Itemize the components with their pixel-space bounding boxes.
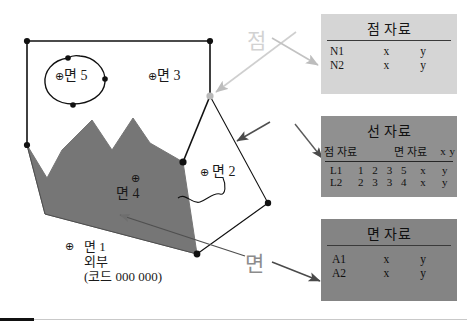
area-row2-id: A2 bbox=[321, 266, 384, 280]
table-row: A1 x y bbox=[321, 252, 457, 266]
line-row1-n2: 2 bbox=[370, 164, 384, 176]
point-data-table: 점 자료 N1 x y N2 x y bbox=[321, 14, 457, 94]
area-table-rule bbox=[327, 245, 451, 246]
figure-canvas: ⊕ 면 5 ⊕ 면 3 ⊕ 면 2 ⊕ 면 4 ⊕ 면 1 외부 (코드 000… bbox=[0, 0, 467, 329]
table-row: N2 x y bbox=[321, 58, 457, 72]
centroid-icon-area1: ⊕ bbox=[65, 240, 74, 253]
table-row: L2 2 3 3 4 x y bbox=[321, 176, 457, 188]
table-row: L1 1 2 3 5 x y bbox=[321, 164, 457, 176]
bottom-rule-light-segment bbox=[34, 319, 467, 320]
point-row1-y: y bbox=[420, 44, 457, 58]
point-row2-y: y bbox=[420, 58, 457, 72]
point-table-rule bbox=[327, 40, 451, 41]
point-row1-id: N1 bbox=[321, 44, 384, 58]
area-row1-id: A1 bbox=[321, 252, 384, 266]
line-row1-a1: 3 bbox=[385, 164, 399, 176]
line-header-x: x bbox=[438, 142, 447, 160]
area-data-table: 면 자료 A1 x y A2 x y bbox=[321, 219, 457, 301]
line-row2-n2: 3 bbox=[370, 176, 384, 188]
area-table-arrow bbox=[272, 262, 320, 281]
table-row: A2 x y bbox=[321, 266, 457, 280]
line-data-table: 선 자료 점 자료 면 자료 x y L1 1 2 3 5 x bbox=[321, 116, 457, 197]
bottom-rule bbox=[0, 318, 467, 321]
line-row1-x: x bbox=[413, 164, 435, 176]
label-area4: 면 4 bbox=[116, 186, 140, 202]
point-row1-x: x bbox=[384, 44, 421, 58]
label-area1-code: (코드 000 000) bbox=[84, 270, 162, 285]
centroid-icon-area5: ⊕ bbox=[55, 70, 64, 83]
line-edge-arrow bbox=[237, 122, 270, 141]
line-header-area: 면 자료 bbox=[382, 142, 438, 160]
area-row2-x: x bbox=[384, 266, 421, 280]
line-row1-n1: 1 bbox=[356, 164, 370, 176]
line-header-y: y bbox=[448, 142, 457, 160]
label-area2: 면 2 bbox=[212, 164, 236, 180]
bottom-rule-dark-segment bbox=[0, 318, 34, 321]
line-row1-id: L1 bbox=[321, 164, 356, 176]
area-table-title: 면 자료 bbox=[321, 219, 457, 245]
point-row2-id: N2 bbox=[321, 58, 384, 72]
line-row1-a2: 5 bbox=[399, 164, 413, 176]
area-row1-x: x bbox=[384, 252, 421, 266]
line-row2-a1: 3 bbox=[385, 176, 399, 188]
label-area1-name: 면 1 bbox=[84, 240, 162, 255]
line-row2-x: x bbox=[413, 176, 435, 188]
area-row1-y: y bbox=[420, 252, 457, 266]
line-table-title: 선 자료 bbox=[321, 116, 457, 142]
point-table-title: 점 자료 bbox=[321, 14, 457, 40]
label-area3: 면 3 bbox=[157, 68, 181, 84]
line-table-arrow bbox=[295, 124, 322, 158]
callout-area-word: 면 bbox=[245, 247, 264, 277]
line-row2-n1: 2 bbox=[356, 176, 370, 188]
area4-polygon bbox=[27, 118, 197, 254]
label-area1-block: 면 1 외부 (코드 000 000) bbox=[84, 240, 162, 285]
centroid-icon-area3: ⊕ bbox=[148, 70, 157, 83]
line-table-header-row: 점 자료 면 자료 x y bbox=[321, 142, 457, 160]
callout-point-word: 점 bbox=[247, 24, 266, 54]
outer-boundary-polygon bbox=[27, 41, 210, 145]
line-row1-y: y bbox=[435, 164, 457, 176]
area-row2-y: y bbox=[420, 266, 457, 280]
line-row2-y: y bbox=[435, 176, 457, 188]
line-row2-id: L2 bbox=[321, 176, 356, 188]
point-table-arrow bbox=[272, 38, 318, 65]
label-area5: 면 5 bbox=[64, 68, 88, 84]
line-table-rule bbox=[325, 161, 453, 162]
centroid-icon-area4: ⊕ bbox=[131, 172, 140, 185]
line-header-node: 점 자료 bbox=[321, 142, 382, 160]
label-area1-exterior: 외부 bbox=[84, 255, 162, 270]
line-row2-a2: 4 bbox=[399, 176, 413, 188]
centroid-icon-area2: ⊕ bbox=[200, 166, 209, 179]
table-row: N1 x y bbox=[321, 44, 457, 58]
point-row2-x: x bbox=[384, 58, 421, 72]
